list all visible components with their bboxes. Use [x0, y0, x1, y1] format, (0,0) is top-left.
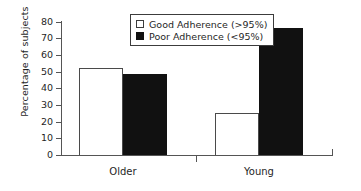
- bar-young-good-adherence: [215, 113, 259, 156]
- y-axis-tick: [56, 38, 62, 39]
- legend-item-good-adherence: Good Adherence (>95%): [136, 18, 267, 30]
- y-axis-tick: [56, 138, 62, 139]
- bar-older-good-adherence: [79, 68, 123, 156]
- bar-chart: Percentage of subjects 80 70 60 50 40 30…: [0, 0, 361, 191]
- x-axis-line: [61, 155, 333, 156]
- bar-older-poor-adherence: [123, 74, 167, 156]
- y-axis-tick: [56, 55, 62, 56]
- y-axis-tick: [56, 105, 62, 106]
- x-axis-end-cap: [332, 149, 333, 156]
- x-axis-tick-label-young: Young: [224, 166, 294, 177]
- y-axis-tick-label: 40: [27, 83, 53, 93]
- y-axis-tick-label: 20: [27, 117, 53, 127]
- y-axis-tick-label: 50: [27, 67, 53, 77]
- y-axis-tick-label: 80: [27, 17, 53, 27]
- x-axis-mid-tick: [196, 156, 197, 162]
- legend: Good Adherence (>95%) Poor Adherence (<9…: [130, 14, 274, 46]
- y-axis-tick-label: 10: [27, 133, 53, 143]
- y-axis-tick-label: 60: [27, 50, 53, 60]
- legend-label: Poor Adherence (<95%): [149, 31, 263, 42]
- bar-young-poor-adherence: [259, 28, 303, 156]
- y-axis-tick: [56, 72, 62, 73]
- y-axis-tick: [56, 88, 62, 89]
- x-axis-tick-label-older: Older: [88, 166, 158, 177]
- legend-label: Good Adherence (>95%): [149, 19, 267, 30]
- y-axis-tick-label: 70: [27, 33, 53, 43]
- open-square-swatch-icon: [136, 20, 144, 28]
- y-axis-tick-label: 30: [27, 100, 53, 110]
- y-axis-tick: [56, 22, 62, 23]
- y-axis-tick: [56, 122, 62, 123]
- legend-item-poor-adherence: Poor Adherence (<95%): [136, 30, 267, 42]
- filled-square-swatch-icon: [136, 32, 144, 40]
- y-axis-tick-label: 0: [27, 150, 53, 160]
